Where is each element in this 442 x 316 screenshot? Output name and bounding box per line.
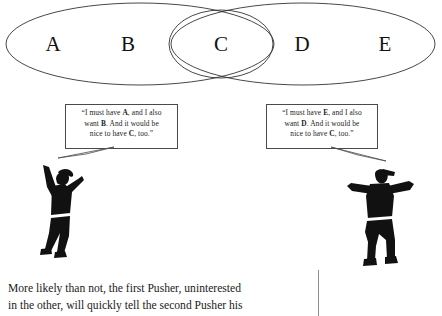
speech-tail-left bbox=[56, 146, 116, 162]
column-divider-rule bbox=[318, 270, 319, 316]
pusher-silhouette-left-icon bbox=[34, 163, 108, 267]
venn-label-e: E bbox=[372, 34, 398, 55]
speech-tail-right bbox=[330, 146, 388, 164]
speech-right-line-3: nice to have C, too.” bbox=[272, 129, 372, 140]
venn-label-a: A bbox=[40, 34, 66, 55]
pusher-figure-right bbox=[345, 166, 417, 274]
speech-right-l3-post: , too.” bbox=[335, 129, 354, 138]
speech-right-l3-pre: nice to have bbox=[290, 129, 329, 138]
speech-left-l1-post: , and I also bbox=[128, 108, 162, 117]
venn-label-b: B bbox=[115, 34, 141, 55]
pusher-figure-left bbox=[34, 163, 108, 271]
speech-right-l1-post: , and I also bbox=[328, 108, 362, 117]
speech-right-l2-pre: want bbox=[285, 119, 302, 128]
speech-box-right: “I must have E, and I also want D. And i… bbox=[266, 104, 378, 149]
speech-right-l2-post: . And it would be bbox=[307, 119, 360, 128]
speech-left-l2-pre: want bbox=[84, 119, 101, 128]
speech-left-line-2: want B. And it would be bbox=[71, 119, 172, 130]
speech-left-l2-post: . And it would be bbox=[106, 119, 159, 128]
speech-left-line-1: “I must have A, and I also bbox=[71, 108, 172, 119]
speech-left-l3-post: , too.” bbox=[134, 129, 153, 138]
venn-label-d: D bbox=[289, 34, 315, 55]
caption-line-2: in the other, will quickly tell the seco… bbox=[8, 297, 308, 314]
speech-left-l3-pre: nice to have bbox=[90, 129, 129, 138]
caption-paragraph: More likely than not, the first Pusher, … bbox=[8, 280, 308, 314]
speech-left-l1-pre: “I must have bbox=[82, 108, 123, 117]
speech-box-left: “I must have A, and I also want B. And i… bbox=[65, 104, 178, 149]
venn-label-c: C bbox=[208, 34, 234, 55]
speech-right-line-1: “I must have E, and I also bbox=[272, 108, 372, 119]
speech-right-l1-pre: “I must have bbox=[282, 108, 323, 117]
speech-left-line-3: nice to have C, too.” bbox=[71, 129, 172, 140]
venn-diagram: A B C D E bbox=[0, 0, 442, 96]
caption-line-1: More likely than not, the first Pusher, … bbox=[8, 280, 308, 297]
pusher-silhouette-right-icon bbox=[345, 166, 417, 270]
speech-right-line-2: want D. And it would be bbox=[272, 119, 372, 130]
